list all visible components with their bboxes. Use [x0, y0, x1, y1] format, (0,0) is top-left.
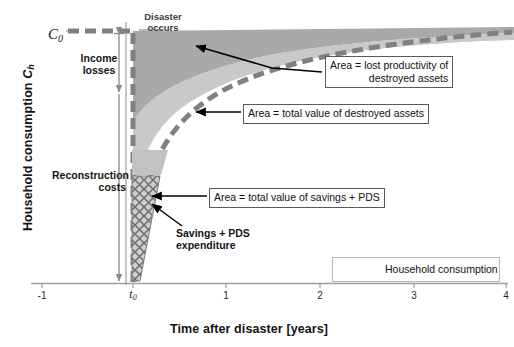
- y-axis-label-symbol-sub: h: [26, 64, 36, 70]
- x-axis-label: Time after disaster [years]: [170, 322, 328, 336]
- savings-pds-line1: Savings + PDS: [176, 228, 274, 240]
- savings-pds-hatched-wedge: [132, 176, 160, 281]
- y-axis-label: Household consumption Ch: [21, 23, 36, 273]
- reconstruction-costs-label: Reconstruction costs: [52, 170, 126, 194]
- reconstruction-costs-line2: costs: [52, 182, 126, 194]
- c0-subscript: 0: [58, 33, 63, 44]
- y-axis-label-symbol: C: [21, 70, 35, 79]
- disaster-occurs-label: Disaster occurs: [127, 12, 199, 33]
- reconstruction-costs-line1: Reconstruction: [52, 170, 126, 182]
- callout-lost-productivity: Area = lost productivity of destroyed as…: [325, 56, 453, 88]
- legend: Household consumption: [332, 257, 500, 282]
- x-tick-label-t0: t0: [121, 287, 145, 302]
- income-losses-line1: Income: [73, 53, 125, 65]
- x-tick-label-4: 4: [494, 290, 514, 301]
- income-losses-line2: losses: [73, 65, 125, 77]
- x-tick-label-3: 3: [402, 290, 426, 301]
- chart-figure: Household consumption Ch C0 Disaster occ…: [0, 0, 514, 347]
- callout-savings-pds-text: Area = total value of savings + PDS: [214, 191, 380, 204]
- disaster-occurs-line2: occurs: [127, 23, 199, 34]
- savings-expenditure-arrow: [152, 204, 182, 226]
- legend-item-household-consumption: Household consumption: [385, 263, 498, 275]
- savings-pds-line2: expenditure: [176, 240, 274, 252]
- x-tick-label-2: 2: [308, 290, 332, 301]
- x-tick-label-minus1: -1: [30, 290, 54, 301]
- y-axis-label-text: Household consumption: [21, 82, 35, 231]
- callout-lost-productivity-line2: destroyed assets: [330, 72, 448, 85]
- c0-letter: C: [48, 26, 58, 42]
- x-tick-label-1: 1: [214, 290, 238, 301]
- y-tick-label-c0: C0: [48, 26, 63, 44]
- reconstruction-block: [132, 150, 168, 175]
- callout-savings-pds: Area = total value of savings + PDS: [209, 188, 385, 208]
- callout-lost-productivity-line1: Area = lost productivity of: [330, 59, 448, 72]
- savings-pds-expenditure-label: Savings + PDS expenditure: [176, 228, 274, 252]
- callout-destroyed-assets: Area = total value of destroyed assets: [243, 104, 429, 124]
- income-losses-label: Income losses: [73, 53, 125, 77]
- callout-destroyed-assets-text: Area = total value of destroyed assets: [248, 107, 424, 120]
- t0-subscript: 0: [133, 293, 137, 302]
